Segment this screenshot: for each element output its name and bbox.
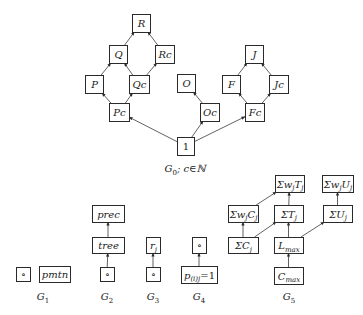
node-swC: ΣwjCj [229, 206, 259, 223]
node-rj: rj [147, 238, 161, 254]
node-label: O [182, 78, 190, 89]
node-swU: ΣwjUj [323, 176, 354, 193]
edge-Pc-to-P [102, 93, 111, 103]
node-label: Jc [272, 79, 284, 90]
graph-label-text: G3 [147, 291, 159, 305]
node-sT: ΣTj [275, 206, 304, 223]
node-label: 1 [183, 141, 189, 152]
edge-Qc-to-Q [124, 63, 132, 75]
node-swT: ΣwjTj [276, 176, 305, 193]
node-label: F [227, 79, 236, 90]
node-label: ∘ [151, 269, 156, 280]
edge-sC-to-sT [255, 222, 277, 237]
node-g4o: ∘ [193, 238, 207, 254]
node-label: R [137, 18, 146, 29]
node-label: Rc [157, 49, 172, 60]
graph-label-text: G0; c∈ℕ [164, 163, 207, 177]
node-Cmax: Cmax [275, 268, 304, 285]
node-sU: ΣUj [324, 206, 353, 223]
node-Oc: Oc [201, 104, 220, 122]
edge-I-to-Oc [192, 121, 203, 137]
node-g2o: ∘ [101, 268, 115, 282]
graph-label-G4: G4 [193, 291, 206, 305]
edge-Fc-to-Jc [262, 93, 271, 103]
node-prec: prec [93, 206, 125, 223]
edge-Jc-to-J [261, 63, 271, 75]
edge-Rc-to-R [148, 32, 158, 45]
edge-Oc-to-O [193, 92, 202, 103]
node-label: Oc [203, 107, 217, 118]
node-tree: tree [93, 238, 125, 254]
node-g3o: ∘ [147, 268, 161, 282]
reduction-graphs-diagram: RQRcPQcPcOOc1JFJcFc∘pmtnprectree∘rj∘∘p(i… [0, 0, 363, 315]
graph-label-G0: G0; c∈ℕ [164, 163, 207, 177]
node-label: ∘ [105, 269, 110, 280]
node-sC: ΣCj [229, 238, 259, 254]
node-label: prec [97, 209, 120, 220]
edge-Qc-to-Rc [147, 63, 157, 75]
node-Fc: Fc [246, 104, 265, 122]
node-label: tree [98, 240, 119, 251]
node-label: Fc [248, 107, 262, 118]
edge-Q-to-R [125, 32, 135, 45]
node-F: F [223, 76, 241, 94]
node-I: 1 [178, 138, 195, 156]
node-label: pmtn [42, 269, 68, 280]
node-Q: Q [110, 46, 128, 64]
node-Jc: Jc [270, 76, 289, 94]
graph-label-text: G1 [37, 291, 49, 305]
edge-Pc-to-Qc [125, 93, 132, 103]
node-g1o: ∘ [17, 268, 31, 282]
node-P: P [86, 76, 104, 94]
node-label: P [90, 79, 98, 90]
node-label: J [250, 49, 257, 60]
edge-swC-to-swT [256, 192, 276, 205]
node-R: R [133, 15, 151, 33]
node-label: Pc [112, 107, 126, 118]
edge-F-to-J [238, 63, 247, 75]
graph-label-text: G2 [101, 291, 113, 305]
node-Lmax: Lmax [275, 238, 304, 254]
node-O: O [178, 75, 196, 93]
node-Pc: Pc [110, 104, 130, 122]
graph-label-G2: G2 [101, 291, 113, 305]
node-pij: p(i)j=1 [182, 267, 218, 284]
node-J: J [246, 46, 264, 64]
graph-label-text: G4 [193, 291, 206, 305]
node-label: ∘ [21, 269, 26, 280]
edge-I-to-Pc [129, 117, 177, 142]
node-label: Qc [133, 79, 147, 90]
graph-label-G3: G3 [147, 291, 159, 305]
edge-P-to-Q [101, 63, 111, 75]
node-label: ∘ [197, 240, 202, 251]
node-label: Q [114, 49, 122, 60]
node-Rc: Rc [156, 46, 175, 64]
node-Qc: Qc [130, 76, 150, 94]
node-pmtn: pmtn [40, 267, 71, 283]
graph-label-G5: G5 [283, 291, 295, 305]
edge-Lmax-to-sU [301, 222, 324, 237]
graph-label-G1: G1 [37, 291, 49, 305]
edge-Fc-to-F [239, 93, 247, 103]
graph-label-text: G5 [283, 291, 295, 305]
